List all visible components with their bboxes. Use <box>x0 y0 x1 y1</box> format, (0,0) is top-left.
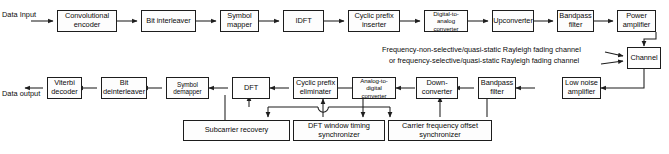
block-bit-interleaver[interactable]: Bit interleaver <box>141 10 196 32</box>
block-down-converter[interactable]: Down-converter <box>416 77 458 99</box>
block-bandpass-filter-rx[interactable]: Bandpass filter <box>478 77 516 99</box>
block-cyclic-prefix-inserter[interactable]: Cyclic prefix inserter <box>348 10 400 32</box>
block-label: IDFT <box>295 17 311 26</box>
block-label: DFT window timing synchronizer <box>295 122 383 139</box>
block-label: Bandpass filter <box>559 12 592 29</box>
block-label: Power amplifier <box>619 12 654 29</box>
block-label: Cyclic prefix eliminater <box>295 79 336 96</box>
block-label: Symbol mapper <box>222 12 257 29</box>
block-label: Channel <box>630 54 657 63</box>
block-label: Down-converter <box>418 79 456 96</box>
block-viterbi-decoder[interactable]: Viterbi decoder <box>47 77 82 99</box>
block-upconverter[interactable]: Upconverter <box>492 10 534 32</box>
block-label: Bit interleaver <box>146 17 190 26</box>
block-label: DFT <box>244 84 258 93</box>
block-dft[interactable]: DFT <box>232 77 270 99</box>
label-channel-note-1: Frequency-non-selective/quasi-static Ray… <box>382 46 581 55</box>
block-carrier-frequency-offset-synchronizer[interactable]: Carrier frequency offset synchronizer <box>388 120 492 141</box>
block-label: Symbol demapper <box>168 81 207 96</box>
block-label: Low noise amplifier <box>564 79 599 96</box>
label-data-input: Data Input <box>2 11 36 20</box>
wire-power-amp-to-channel <box>644 32 656 46</box>
block-channel[interactable]: Channel <box>627 47 661 69</box>
block-idft[interactable]: IDFT <box>283 10 324 32</box>
block-label: Analog-to-digital converter <box>354 77 394 99</box>
block-power-amplifier[interactable]: Power amplifier <box>617 10 656 32</box>
block-low-noise-amplifier[interactable]: Low noise amplifier <box>562 77 601 99</box>
block-label: Bit deinterleaver <box>103 79 145 96</box>
wire-channel-to-lna <box>601 69 644 88</box>
block-digital-to-analog-converter[interactable]: Digital-to-analog converter <box>424 10 468 32</box>
label-channel-note-2: or frequency-selective/quasi-static Rayl… <box>389 57 579 66</box>
block-cyclic-prefix-eliminater[interactable]: Cyclic prefix eliminater <box>293 77 338 99</box>
block-bit-deinterleaver[interactable]: Bit deinterleaver <box>101 77 147 99</box>
block-label: Subcarrier recovery <box>205 126 269 135</box>
block-label: Convolutional encoder <box>59 12 115 29</box>
wire-channel-note-2 <box>601 61 623 64</box>
block-label: Bandpass filter <box>480 79 514 96</box>
block-label: Digital-to-analog converter <box>426 10 466 32</box>
label-data-output: Data output <box>2 90 40 99</box>
block-label: Viterbi decoder <box>49 79 80 96</box>
block-label: Cyclic prefix inserter <box>350 12 398 29</box>
block-symbol-demapper[interactable]: Symbol demapper <box>166 77 209 99</box>
block-diagram-canvas: Convolutional encoder Bit interleaver Sy… <box>0 0 669 154</box>
block-analog-to-digital-converter[interactable]: Analog-to-digital converter <box>352 77 396 99</box>
block-convolutional-encoder[interactable]: Convolutional encoder <box>57 10 117 32</box>
block-subcarrier-recovery[interactable]: Subcarrier recovery <box>183 120 290 141</box>
block-label: Upconverter <box>493 17 533 26</box>
block-bandpass-filter-tx[interactable]: Bandpass filter <box>557 10 594 32</box>
block-symbol-mapper[interactable]: Symbol mapper <box>220 10 259 32</box>
block-label: Carrier frequency offset synchronizer <box>390 122 490 139</box>
block-dft-window-timing-synchronizer[interactable]: DFT window timing synchronizer <box>293 120 385 141</box>
wire-channel-note-1 <box>605 52 623 56</box>
